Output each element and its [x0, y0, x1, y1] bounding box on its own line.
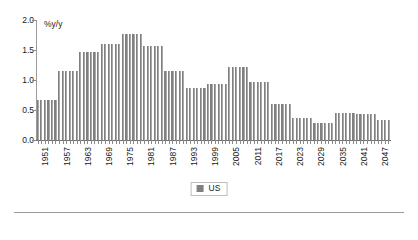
bar — [225, 84, 227, 140]
x-axis-tick-mark — [194, 140, 195, 144]
bar — [122, 34, 124, 140]
bar — [335, 113, 337, 140]
bar — [271, 104, 273, 140]
bar — [292, 118, 294, 140]
bar — [168, 71, 170, 140]
x-axis-tick-mark — [151, 140, 152, 144]
x-axis-tick-mark — [371, 140, 372, 144]
legend-swatch-us-icon — [197, 185, 204, 192]
bar — [367, 114, 369, 140]
bar — [296, 118, 298, 140]
x-axis-tick-mark — [183, 140, 184, 144]
x-axis-tick-mark — [264, 140, 265, 144]
bar — [175, 71, 177, 140]
bar — [47, 100, 49, 140]
x-axis-tick-mark — [353, 140, 354, 144]
x-axis-tick-label: 2029 — [317, 147, 325, 166]
x-axis-tick-label: 1951 — [41, 147, 49, 166]
x-axis-tick-mark — [218, 140, 219, 144]
bar — [182, 71, 184, 140]
x-axis-tick-mark — [158, 140, 159, 144]
x-axis-tick-mark — [144, 140, 145, 144]
bar — [101, 44, 103, 140]
bar — [235, 67, 237, 140]
x-axis-tick-mark — [109, 140, 110, 144]
x-axis-tick-mark — [133, 140, 134, 144]
x-axis-tick-mark — [112, 140, 113, 144]
x-axis-tick-label: 1999 — [211, 147, 219, 166]
bar — [108, 44, 110, 140]
bar — [257, 82, 259, 140]
x-axis-tick-mark — [229, 140, 230, 144]
footer-divider — [14, 212, 404, 213]
bar — [253, 82, 255, 140]
x-axis-tick-mark — [328, 140, 329, 144]
bar — [69, 71, 71, 140]
bar — [306, 118, 308, 140]
x-axis-tick-mark — [310, 140, 311, 144]
x-axis-tick-mark — [307, 140, 308, 144]
x-axis-tick-label: 2005 — [232, 147, 240, 166]
bar — [370, 114, 372, 140]
x-axis-tick-mark — [243, 140, 244, 144]
bar — [83, 52, 85, 140]
bar — [352, 113, 354, 140]
bar-slot — [387, 20, 391, 140]
x-axis-tick-mark — [247, 140, 248, 144]
x-axis-tick-mark — [296, 140, 297, 144]
bar — [246, 67, 248, 140]
x-axis-tick-mark — [41, 140, 42, 144]
x-axis-tick-label: 1993 — [190, 147, 198, 166]
bar — [381, 120, 383, 140]
x-axis-tick-mark — [289, 140, 290, 144]
x-axis-tick-mark — [176, 140, 177, 144]
x-axis-tick-mark — [332, 140, 333, 144]
x-axis-tick-mark — [339, 140, 340, 144]
x-axis-tick-mark — [73, 140, 74, 144]
x-axis-tick-mark — [232, 140, 233, 144]
bar — [86, 52, 88, 140]
bar — [132, 34, 134, 140]
x-axis-tick-mark — [321, 140, 322, 144]
bar — [359, 114, 361, 140]
x-axis-tick-label: 2035 — [339, 147, 347, 166]
bar — [374, 114, 376, 140]
x-axis-tick-mark — [374, 140, 375, 144]
x-axis-tick-mark — [254, 140, 255, 144]
x-axis-tick-mark — [165, 140, 166, 144]
x-axis-tick-mark — [381, 140, 382, 144]
chart-legend: US — [191, 182, 228, 196]
bar — [196, 88, 198, 140]
bar — [72, 71, 74, 140]
bar — [104, 44, 106, 140]
bar — [115, 44, 117, 140]
x-axis-tick-mark — [140, 140, 141, 144]
bar — [179, 71, 181, 140]
x-axis-tick-mark — [360, 140, 361, 144]
bar — [356, 114, 358, 140]
x-axis-tick-mark — [275, 140, 276, 144]
bar — [274, 104, 276, 140]
bar — [207, 84, 209, 140]
bar — [278, 104, 280, 140]
x-axis-tick-mark — [48, 140, 49, 144]
x-axis-tick-label: 2041 — [360, 147, 368, 166]
y-axis-tick-label: 0.0 — [0, 136, 34, 144]
bar — [331, 123, 333, 140]
bar — [338, 113, 340, 140]
x-axis-tick-mark — [385, 140, 386, 144]
bar — [147, 46, 149, 140]
bar — [239, 67, 241, 140]
x-axis-tick-mark — [98, 140, 99, 144]
x-axis-tick-mark — [155, 140, 156, 144]
bar — [303, 118, 305, 140]
x-axis-tick-mark — [303, 140, 304, 144]
bar — [377, 120, 379, 140]
x-axis-tick-label: 2047 — [381, 147, 389, 166]
x-axis-tick-mark — [52, 140, 53, 144]
bar — [90, 52, 92, 140]
x-axis-tick-mark — [335, 140, 336, 144]
x-axis-tick-mark — [172, 140, 173, 144]
bar — [125, 34, 127, 140]
bar — [93, 52, 95, 140]
